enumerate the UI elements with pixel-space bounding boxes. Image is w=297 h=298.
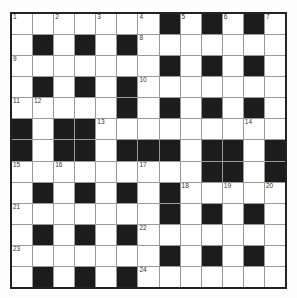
crossword-cell[interactable]: 1 bbox=[12, 14, 32, 34]
crossword-cell[interactable] bbox=[54, 35, 74, 55]
crossword-cell[interactable] bbox=[265, 119, 285, 139]
crossword-cell[interactable] bbox=[202, 77, 222, 97]
crossword-cell[interactable] bbox=[117, 56, 137, 76]
crossword-cell[interactable] bbox=[96, 77, 116, 97]
crossword-cell[interactable]: 3 bbox=[96, 14, 116, 34]
crossword-cell[interactable] bbox=[223, 98, 243, 118]
crossword-cell[interactable]: 15 bbox=[12, 162, 32, 182]
crossword-cell[interactable] bbox=[181, 35, 201, 55]
crossword-cell[interactable]: 24 bbox=[138, 267, 158, 287]
crossword-cell[interactable] bbox=[96, 204, 116, 224]
crossword-cell[interactable] bbox=[33, 119, 53, 139]
crossword-cell[interactable]: 11 bbox=[12, 98, 32, 118]
crossword-cell[interactable] bbox=[202, 183, 222, 203]
crossword-cell[interactable] bbox=[75, 204, 95, 224]
crossword-cell[interactable] bbox=[181, 267, 201, 287]
crossword-cell[interactable] bbox=[75, 162, 95, 182]
crossword-cell[interactable]: 23 bbox=[12, 246, 32, 266]
crossword-cell[interactable] bbox=[75, 246, 95, 266]
crossword-cell[interactable]: 18 bbox=[181, 183, 201, 203]
crossword-cell[interactable] bbox=[265, 246, 285, 266]
crossword-cell[interactable] bbox=[138, 204, 158, 224]
crossword-cell[interactable] bbox=[54, 204, 74, 224]
crossword-cell[interactable] bbox=[75, 14, 95, 34]
crossword-cell[interactable] bbox=[160, 119, 180, 139]
crossword-cell[interactable] bbox=[223, 35, 243, 55]
crossword-cell[interactable] bbox=[33, 14, 53, 34]
crossword-cell[interactable]: 19 bbox=[223, 183, 243, 203]
crossword-cell[interactable] bbox=[117, 14, 137, 34]
crossword-cell[interactable]: 12 bbox=[33, 98, 53, 118]
crossword-cell[interactable] bbox=[265, 225, 285, 245]
crossword-cell[interactable] bbox=[96, 267, 116, 287]
crossword-cell[interactable] bbox=[54, 98, 74, 118]
crossword-cell[interactable] bbox=[54, 183, 74, 203]
crossword-cell[interactable] bbox=[138, 119, 158, 139]
crossword-cell[interactable] bbox=[12, 225, 32, 245]
crossword-cell[interactable]: 21 bbox=[12, 204, 32, 224]
crossword-cell[interactable] bbox=[265, 267, 285, 287]
crossword-cell[interactable] bbox=[244, 183, 264, 203]
crossword-cell[interactable] bbox=[54, 77, 74, 97]
crossword-cell[interactable] bbox=[223, 77, 243, 97]
crossword-cell[interactable] bbox=[160, 162, 180, 182]
crossword-cell[interactable] bbox=[265, 98, 285, 118]
crossword-cell[interactable] bbox=[244, 225, 264, 245]
crossword-cell[interactable] bbox=[138, 183, 158, 203]
crossword-cell[interactable] bbox=[96, 225, 116, 245]
crossword-cell[interactable] bbox=[160, 77, 180, 97]
crossword-cell[interactable] bbox=[96, 162, 116, 182]
crossword-cell[interactable] bbox=[12, 183, 32, 203]
crossword-cell[interactable] bbox=[202, 267, 222, 287]
crossword-cell[interactable] bbox=[265, 35, 285, 55]
crossword-cell[interactable] bbox=[12, 35, 32, 55]
crossword-cell[interactable] bbox=[138, 246, 158, 266]
crossword-cell[interactable] bbox=[181, 140, 201, 160]
crossword-cell[interactable]: 10 bbox=[138, 77, 158, 97]
crossword-cell[interactable]: 22 bbox=[138, 225, 158, 245]
crossword-cell[interactable] bbox=[96, 183, 116, 203]
crossword-cell[interactable] bbox=[96, 98, 116, 118]
crossword-cell[interactable] bbox=[117, 246, 137, 266]
crossword-cell[interactable]: 5 bbox=[181, 14, 201, 34]
crossword-cell[interactable] bbox=[96, 56, 116, 76]
crossword-cell[interactable] bbox=[117, 204, 137, 224]
crossword-cell[interactable] bbox=[265, 77, 285, 97]
crossword-cell[interactable]: 17 bbox=[138, 162, 158, 182]
crossword-cell[interactable] bbox=[54, 246, 74, 266]
crossword-cell[interactable]: 6 bbox=[223, 14, 243, 34]
crossword-cell[interactable] bbox=[223, 56, 243, 76]
crossword-cell[interactable] bbox=[181, 225, 201, 245]
crossword-cell[interactable] bbox=[244, 140, 264, 160]
crossword-cell[interactable] bbox=[181, 162, 201, 182]
crossword-cell[interactable] bbox=[160, 225, 180, 245]
crossword-cell[interactable] bbox=[138, 98, 158, 118]
crossword-cell[interactable]: 13 bbox=[96, 119, 116, 139]
crossword-cell[interactable] bbox=[160, 267, 180, 287]
crossword-cell[interactable] bbox=[223, 267, 243, 287]
crossword-cell[interactable] bbox=[265, 204, 285, 224]
crossword-cell[interactable] bbox=[244, 77, 264, 97]
crossword-cell[interactable] bbox=[181, 204, 201, 224]
crossword-cell[interactable]: 16 bbox=[54, 162, 74, 182]
crossword-cell[interactable] bbox=[117, 162, 137, 182]
crossword-cell[interactable] bbox=[181, 77, 201, 97]
crossword-cell[interactable] bbox=[160, 35, 180, 55]
crossword-cell[interactable] bbox=[33, 246, 53, 266]
crossword-cell[interactable] bbox=[138, 56, 158, 76]
crossword-cell[interactable]: 4 bbox=[138, 14, 158, 34]
crossword-cell[interactable] bbox=[54, 56, 74, 76]
crossword-cell[interactable]: 14 bbox=[244, 119, 264, 139]
crossword-cell[interactable] bbox=[244, 267, 264, 287]
crossword-cell[interactable] bbox=[181, 56, 201, 76]
crossword-cell[interactable] bbox=[202, 225, 222, 245]
crossword-cell[interactable] bbox=[223, 204, 243, 224]
crossword-cell[interactable] bbox=[96, 35, 116, 55]
crossword-cell[interactable] bbox=[117, 119, 137, 139]
crossword-cell[interactable]: 8 bbox=[138, 35, 158, 55]
crossword-cell[interactable] bbox=[223, 225, 243, 245]
crossword-cell[interactable] bbox=[33, 162, 53, 182]
crossword-cell[interactable]: 2 bbox=[54, 14, 74, 34]
crossword-cell[interactable] bbox=[75, 56, 95, 76]
crossword-cell[interactable] bbox=[12, 267, 32, 287]
